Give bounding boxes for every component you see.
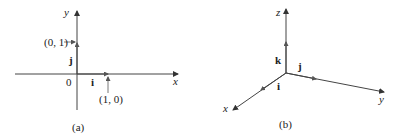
vector-i-3d-label: i (277, 80, 280, 92)
y-axis-3d-label: y (378, 93, 384, 105)
point-01-label: (0, 1) (44, 36, 68, 49)
panel-a: y x (0, 1) j 0 i (1, 0) (a) (15, 6, 178, 134)
vector-j-label: j (68, 54, 73, 66)
origin-label: 0 (66, 76, 72, 88)
y-axis-label: y (63, 6, 69, 18)
vector-i-label: i (91, 76, 94, 88)
z-axis-label: z (275, 6, 281, 18)
vector-k-label: k (275, 54, 282, 66)
panel-b: z k j i y x (b) (222, 6, 384, 131)
x-axis-label: x (172, 75, 178, 87)
vector-j-3d (286, 73, 316, 79)
vector-i-3d (261, 73, 286, 90)
vector-j-3d-label: j (297, 60, 302, 72)
unit-vectors-figure: y x (0, 1) j 0 i (1, 0) (a) z k j i y x … (0, 0, 403, 137)
point-10-label: (1, 0) (99, 93, 123, 106)
x-axis-3d-label: x (222, 102, 228, 114)
caption-a: (a) (72, 121, 85, 134)
caption-b: (b) (279, 118, 292, 131)
